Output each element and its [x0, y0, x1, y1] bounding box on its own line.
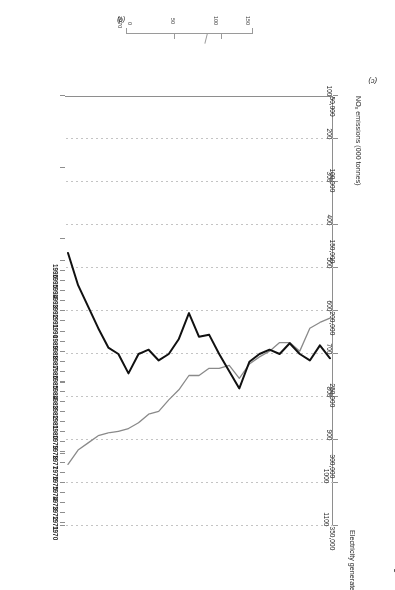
left-axis-title-text: NO [354, 96, 363, 107]
right-axis-tick-label: 350,000 [330, 527, 337, 551]
x-axis-tick [60, 310, 65, 311]
chart-c: 1970197119721973197419751976197719781979… [25, 54, 377, 554]
x-axis-tick [60, 341, 65, 342]
right-axis-tick-label: 50,000 [330, 97, 337, 117]
x-axis-tick [60, 270, 65, 271]
x-axis-tick [60, 401, 65, 402]
electricity-generated-line [68, 318, 330, 464]
x-axis-tick [60, 331, 65, 332]
chart-d-baseline [127, 33, 253, 34]
x-axis-tick [60, 280, 65, 281]
chart-d-panel-label: (d) [117, 17, 125, 24]
chart-d-axis-end-right [126, 28, 127, 34]
x-axis-tick [60, 300, 65, 301]
x-axis-tick [60, 482, 65, 483]
x-axis-tick [60, 290, 65, 291]
chart-d-axis-end-left [252, 28, 253, 34]
series-layer [65, 96, 333, 526]
chart-d-line-stub [204, 33, 208, 44]
x-axis-tick [60, 421, 65, 422]
x-axis-tick [60, 451, 65, 452]
x-axis-tick [60, 320, 65, 321]
right-axis-title: Electricity generated (GWh) [348, 530, 357, 590]
left-axis-tick-label: 900 [326, 429, 333, 440]
left-axis-tick-label: 200 [326, 128, 333, 139]
left-axis-tick [333, 353, 338, 354]
left-axis-tick-label: 400 [326, 214, 333, 225]
x-axis-tick-label: 1996 [52, 264, 59, 278]
right-axis-tick-label: 150,000 [330, 240, 337, 264]
chart-c-panel-label: (c) [368, 77, 377, 86]
left-axis-tick-label: 600 [326, 300, 333, 311]
left-axis-tick-label: 700 [326, 343, 333, 354]
x-axis-tick [60, 381, 65, 382]
x-axis-tick [60, 431, 65, 432]
left-axis-tick [333, 224, 338, 225]
x-axis-tick [60, 351, 65, 352]
x-axis-tick [60, 502, 65, 503]
left-axis-title: NOx emissions (000 tonnes) [354, 96, 363, 186]
chart-d-ytick-50: 50 [170, 18, 176, 24]
x-axis-tick [60, 512, 65, 513]
figure-page: 150 100 50 0 1970 (d) 197019711972197319… [0, 0, 395, 590]
chart-d-tick-2 [174, 33, 175, 39]
chart-d-fragment: 150 100 50 0 1970 (d) [115, 0, 275, 42]
left-axis-tick [333, 267, 338, 268]
x-axis-tick [60, 361, 65, 362]
right-axis-tick-label: 200,000 [330, 312, 337, 336]
x-axis-tick [60, 492, 65, 493]
left-axis-tick-label: 1100 [323, 512, 330, 526]
x-axis-tick [60, 472, 65, 473]
x-axis-tick [60, 371, 65, 372]
x-axis-tick [60, 391, 65, 392]
x-axis-tick [60, 441, 65, 442]
x-axis-tick [60, 462, 65, 463]
left-axis-tick [333, 138, 338, 139]
chart-d-ytick-150: 150 [245, 16, 251, 25]
x-axis-tick [60, 411, 65, 412]
left-axis-tick [333, 439, 338, 440]
right-axis-tick-label: 250,000 [330, 383, 337, 407]
left-axis-tick [333, 482, 338, 483]
chart-d-ytick-0: 0 [127, 22, 133, 25]
chart-c-plot-area [65, 96, 333, 526]
left-axis-title-rest: emissions (000 tonnes) [354, 109, 363, 185]
chart-d-tick-1 [221, 33, 222, 39]
x-axis-tick [60, 260, 65, 261]
right-axis-tick-label: 100,000 [330, 168, 337, 192]
left-axis-tick-label: 100 [326, 85, 333, 96]
nox-emissions-line [68, 253, 330, 388]
chart-d-ytick-100: 100 [213, 16, 219, 25]
right-axis-tick-label: 300,000 [330, 455, 337, 479]
x-axis-tick [60, 522, 65, 523]
